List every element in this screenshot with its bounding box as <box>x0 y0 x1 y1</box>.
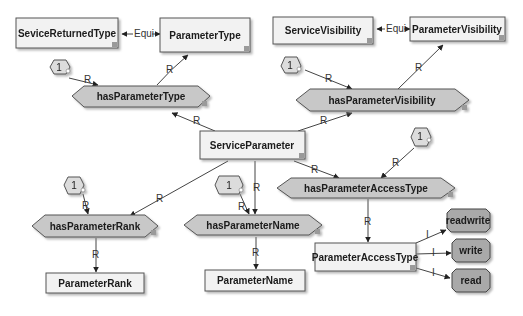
edge-service-parameter-has-name: R <box>253 161 260 214</box>
svg-text:R: R <box>253 182 260 193</box>
edge-equi-service-parameter-visibility: Equi <box>377 23 410 34</box>
svg-text:hasParameterRank: hasParameterRank <box>50 221 141 232</box>
cardinality-access-type[interactable]: 1 <box>411 128 431 146</box>
svg-text:R: R <box>415 62 422 73</box>
svg-text:hasParameterVisibility: hasParameterVisibility <box>328 95 436 106</box>
cardinality-rank[interactable]: 1 <box>64 177 85 194</box>
svg-text:readwrite: readwrite <box>446 215 491 226</box>
edge-service-parameter-has-type: R <box>172 113 215 131</box>
concept-parameter-type[interactable]: ParameterType <box>160 18 250 52</box>
svg-text:1: 1 <box>226 180 232 191</box>
svg-text:1: 1 <box>56 62 62 73</box>
svg-text:R: R <box>364 216 371 227</box>
svg-text:I: I <box>432 267 435 278</box>
svg-text:write: write <box>458 245 483 256</box>
svg-text:ServiceParameter: ServiceParameter <box>210 140 295 151</box>
concept-service-visibility[interactable]: ServiceVisibility <box>273 17 373 44</box>
concept-service-parameter[interactable]: ServiceParameter <box>200 131 305 159</box>
relation-has-parameter-access-type[interactable]: hasParameterAccessType <box>277 178 455 198</box>
edge-card-access-type: R <box>381 148 414 178</box>
edge-has-name-range: R <box>252 237 259 269</box>
svg-text:R: R <box>325 73 332 84</box>
svg-text:ParameterVisibility: ParameterVisibility <box>412 24 502 35</box>
concept-sevice-returned-type[interactable]: SeviceReturnedType <box>16 18 118 48</box>
svg-text:Equi: Equi <box>386 23 406 34</box>
edge-instance-write: I <box>416 247 451 258</box>
svg-text:ParameterAccessType: ParameterAccessType <box>312 252 419 263</box>
relation-has-parameter-type[interactable]: hasParameterType <box>72 86 210 107</box>
svg-text:R: R <box>82 200 89 211</box>
svg-text:ParameterType: ParameterType <box>169 30 241 41</box>
svg-text:hasParameterType: hasParameterType <box>97 91 186 102</box>
instance-readwrite[interactable]: readwrite <box>446 209 491 232</box>
edge-card-type: R <box>69 74 98 85</box>
edge-service-parameter-has-access-type: R <box>294 161 339 178</box>
cardinality-name[interactable]: 1 <box>215 176 243 194</box>
svg-text:SeviceReturnedType: SeviceReturnedType <box>18 28 117 39</box>
svg-text:R: R <box>193 115 200 126</box>
svg-text:R: R <box>156 193 163 204</box>
svg-text:R: R <box>92 249 99 260</box>
svg-text:R: R <box>84 74 91 85</box>
svg-text:hasParameterAccessType: hasParameterAccessType <box>304 183 428 194</box>
edge-has-rank-range: R <box>92 238 99 272</box>
concept-parameter-rank[interactable]: ParameterRank <box>46 273 144 293</box>
edge-has-parameter-type-range: R <box>157 55 188 85</box>
instance-write[interactable]: write <box>452 239 490 262</box>
svg-text:R: R <box>238 201 245 212</box>
svg-text:R: R <box>320 115 327 126</box>
svg-text:R: R <box>311 164 318 175</box>
edge-card-name: R <box>238 194 249 214</box>
cardinality-type[interactable]: 1 <box>50 60 70 74</box>
edge-service-parameter-has-visibility: R <box>298 113 352 131</box>
svg-text:ParameterName: ParameterName <box>217 275 294 286</box>
ontology-diagram: Equi Equi R R R R R <box>0 0 523 316</box>
svg-text:I: I <box>432 247 435 258</box>
edge-instance-read: I <box>416 267 450 278</box>
edge-card-visibility: R <box>305 70 352 89</box>
edge-equi-returned-parameter-type: Equi <box>122 28 160 39</box>
svg-text:read: read <box>460 275 481 286</box>
svg-text:1: 1 <box>287 60 293 71</box>
edge-card-rank: R <box>82 194 89 214</box>
svg-text:R: R <box>392 157 399 168</box>
concept-parameter-visibility[interactable]: ParameterVisibility <box>410 17 505 41</box>
svg-text:I: I <box>426 229 429 240</box>
relation-has-parameter-visibility[interactable]: hasParameterVisibility <box>296 89 469 111</box>
instance-read[interactable]: read <box>452 269 490 292</box>
edge-has-parameter-visibility-range: R <box>398 45 443 89</box>
svg-text:Equi: Equi <box>134 28 154 39</box>
svg-text:R: R <box>166 64 173 75</box>
svg-text:1: 1 <box>417 131 423 142</box>
concept-parameter-name[interactable]: ParameterName <box>205 270 305 291</box>
svg-text:hasParameterName: hasParameterName <box>206 220 300 231</box>
svg-text:R: R <box>252 247 259 258</box>
concept-parameter-access-type[interactable]: ParameterAccessType <box>312 243 419 271</box>
relation-has-parameter-name[interactable]: hasParameterName <box>184 215 322 235</box>
cardinality-visibility[interactable]: 1 <box>281 57 301 73</box>
edge-instance-readwrite: I <box>416 229 446 243</box>
svg-text:1: 1 <box>71 180 77 191</box>
edge-has-access-type-range: R <box>364 199 371 242</box>
edge-service-parameter-has-rank: R <box>130 161 228 216</box>
svg-text:ParameterRank: ParameterRank <box>58 278 132 289</box>
relation-has-parameter-rank[interactable]: hasParameterRank <box>32 215 158 237</box>
svg-text:ServiceVisibility: ServiceVisibility <box>285 25 362 36</box>
